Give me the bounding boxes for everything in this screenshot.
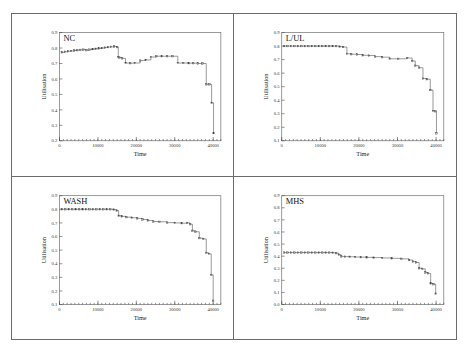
y-tick-label: 0.3 bbox=[274, 265, 280, 270]
plot-area bbox=[282, 33, 444, 141]
data-series-line bbox=[62, 46, 214, 133]
panel-lul: 0.10.20.30.40.50.60.70.80.90100002000030… bbox=[234, 14, 456, 177]
data-point-marker bbox=[61, 52, 63, 53]
y-tick-label: 0.4 bbox=[274, 98, 280, 103]
x-tick-label: 20000 bbox=[131, 307, 143, 312]
y-tick-label: 0.2 bbox=[52, 138, 58, 143]
x-tick-label: 30000 bbox=[392, 143, 404, 148]
y-tick-label: 0.5 bbox=[52, 92, 58, 97]
plot-area bbox=[60, 195, 221, 304]
y-tick-label: 0.9 bbox=[274, 193, 280, 198]
y-tick-label: 0.6 bbox=[274, 71, 280, 76]
y-tick-label: 0.3 bbox=[274, 111, 280, 116]
plot-svg-nc: 0.20.30.40.50.60.70.80.90100002000030000… bbox=[12, 14, 233, 176]
chart-wash: 0.10.20.30.40.50.60.70.80.90100002000030… bbox=[12, 177, 233, 340]
data-series-line bbox=[284, 252, 436, 293]
y-axis-title: Utilisation bbox=[262, 237, 269, 263]
y-tick-label: 0.7 bbox=[274, 217, 280, 222]
panel-mhs: 0.00.10.20.30.40.50.60.70.80.90100002000… bbox=[234, 177, 456, 340]
y-tick-label: 0.2 bbox=[274, 278, 280, 283]
y-tick-label: 0.6 bbox=[52, 77, 58, 82]
x-tick-label: 30000 bbox=[169, 307, 181, 312]
x-tick-label: 30000 bbox=[392, 307, 404, 312]
data-series-line bbox=[62, 209, 213, 300]
y-tick-label: 0.5 bbox=[52, 247, 58, 252]
y-tick-label: 0.2 bbox=[52, 288, 58, 293]
x-tick-label: 10000 bbox=[92, 307, 104, 312]
y-tick-label: 0.3 bbox=[52, 123, 58, 128]
y-tick-label: 0.1 bbox=[52, 302, 58, 307]
y-axis-title: Utilisation bbox=[262, 74, 269, 100]
x-tick-label: 0 bbox=[58, 143, 61, 148]
x-axis-title: Time bbox=[134, 150, 147, 157]
y-tick-label: 0.8 bbox=[52, 46, 58, 51]
chart-lul: 0.10.20.30.40.50.60.70.80.90100002000030… bbox=[234, 14, 456, 176]
x-tick-label: 30000 bbox=[169, 143, 181, 148]
y-tick-label: 0.7 bbox=[52, 220, 58, 225]
x-tick-label: 40000 bbox=[430, 143, 442, 148]
y-tick-label: 0.9 bbox=[274, 30, 280, 35]
x-tick-label: 10000 bbox=[92, 143, 104, 148]
x-tick-label: 40000 bbox=[430, 307, 442, 312]
x-axis-title: Time bbox=[356, 150, 369, 157]
panel-nc: 0.20.30.40.50.60.70.80.90100002000030000… bbox=[12, 14, 234, 177]
y-tick-label: 0.1 bbox=[274, 138, 280, 143]
x-axis-title: Time bbox=[356, 314, 369, 321]
y-tick-label: 0.8 bbox=[52, 206, 58, 211]
plot-svg-wash: 0.10.20.30.40.50.60.70.80.90100002000030… bbox=[12, 177, 233, 340]
y-tick-label: 0.2 bbox=[274, 125, 280, 130]
x-tick-label: 0 bbox=[58, 307, 61, 312]
plot-svg-l/ul: 0.10.20.30.40.50.60.70.80.90100002000030… bbox=[234, 14, 456, 176]
x-tick-label: 40000 bbox=[207, 143, 219, 148]
panel-title: NC bbox=[64, 34, 76, 43]
x-tick-label: 10000 bbox=[315, 143, 327, 148]
y-tick-label: 0.4 bbox=[52, 261, 58, 266]
panel-wash: 0.10.20.30.40.50.60.70.80.90100002000030… bbox=[12, 177, 234, 340]
x-tick-label: 40000 bbox=[207, 307, 219, 312]
x-tick-label: 10000 bbox=[315, 307, 327, 312]
x-tick-label: 20000 bbox=[353, 307, 365, 312]
panel-title: MHS bbox=[286, 197, 305, 206]
y-tick-label: 0.7 bbox=[52, 61, 58, 66]
y-tick-label: 0.8 bbox=[274, 205, 280, 210]
y-axis-title: Utilisation bbox=[40, 237, 47, 263]
y-tick-label: 0.1 bbox=[274, 290, 280, 295]
y-tick-label: 0.0 bbox=[274, 302, 280, 307]
plot-svg-mhs: 0.00.10.20.30.40.50.60.70.80.90100002000… bbox=[234, 177, 456, 340]
plot-area bbox=[282, 195, 444, 304]
x-tick-label: 0 bbox=[281, 143, 284, 148]
y-tick-label: 0.6 bbox=[274, 229, 280, 234]
y-tick-label: 0.4 bbox=[274, 253, 280, 258]
x-axis-title: Time bbox=[134, 314, 147, 321]
y-tick-label: 0.3 bbox=[52, 275, 58, 280]
y-axis-title: Utilisation bbox=[40, 74, 47, 100]
x-tick-label: 20000 bbox=[353, 143, 365, 148]
y-tick-label: 0.4 bbox=[52, 108, 58, 113]
chart-nc: 0.20.30.40.50.60.70.80.90100002000030000… bbox=[12, 14, 233, 176]
data-series-line bbox=[284, 46, 436, 133]
x-tick-label: 20000 bbox=[131, 143, 143, 148]
y-tick-label: 0.9 bbox=[52, 30, 58, 35]
y-tick-label: 0.8 bbox=[274, 44, 280, 49]
chart-mhs: 0.00.10.20.30.40.50.60.70.80.90100002000… bbox=[234, 177, 456, 340]
y-tick-label: 0.7 bbox=[274, 57, 280, 62]
panel-title: WASH bbox=[64, 197, 88, 206]
y-tick-label: 0.9 bbox=[52, 193, 58, 198]
y-tick-label: 0.5 bbox=[274, 241, 280, 246]
panel-title: L/UL bbox=[286, 34, 305, 43]
x-tick-label: 0 bbox=[281, 307, 284, 312]
y-tick-label: 0.6 bbox=[52, 234, 58, 239]
figure-frame: 0.20.30.40.50.60.70.80.90100002000030000… bbox=[11, 13, 457, 340]
y-tick-label: 0.5 bbox=[274, 84, 280, 89]
